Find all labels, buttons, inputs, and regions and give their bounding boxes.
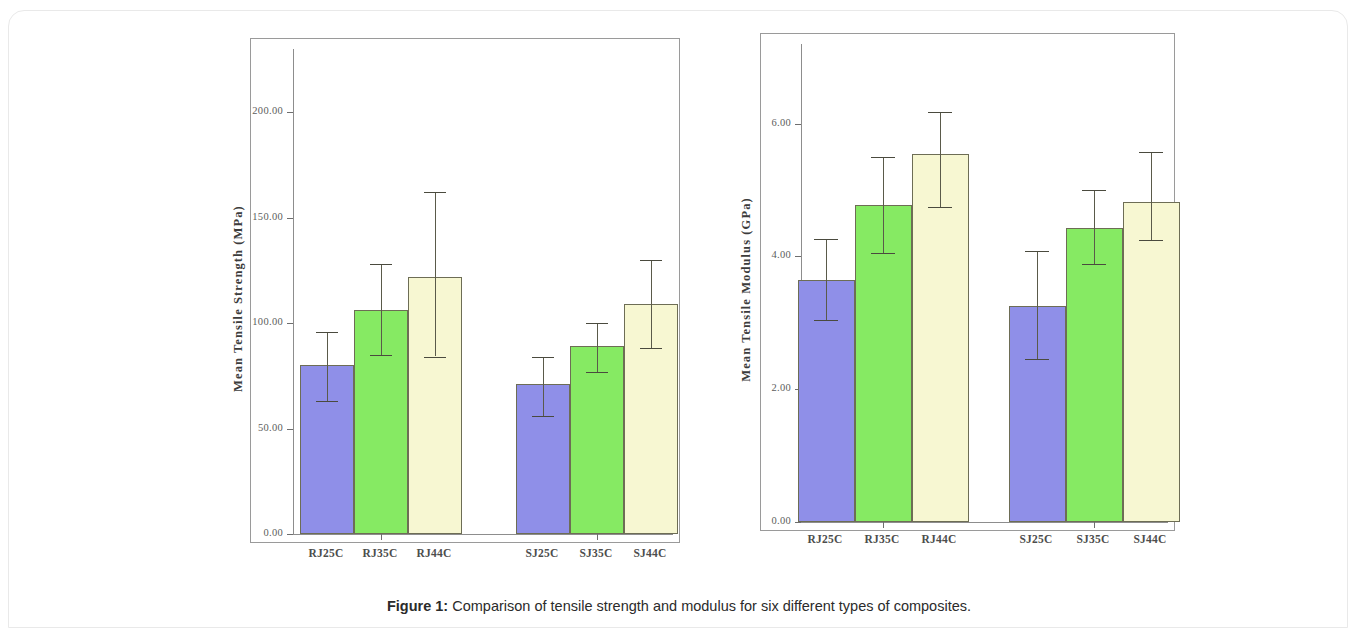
x-axis-label-rj44c: RJ44C [394, 547, 474, 559]
error-bar-stem [435, 192, 436, 356]
error-bar-cap-upper [928, 112, 952, 113]
y-axis-title-tensile-strength: Mean Tensile Strength (MPa) [231, 148, 246, 448]
error-bar-cap-lower [640, 348, 662, 349]
error-bar-cap-upper [370, 264, 392, 265]
error-bar-stem [1151, 152, 1152, 240]
figure-caption-label: Figure 1: [387, 598, 448, 614]
error-bar-cap-upper [424, 192, 446, 193]
x-axis-label-sj44c: SJ44C [1110, 533, 1190, 545]
plot-area-tensile-modulus: 0.002.004.006.00 [760, 33, 1175, 531]
error-bar-cap-lower [316, 401, 338, 402]
y-axis-tick [287, 112, 293, 113]
error-bar-cap-lower [814, 320, 838, 321]
figure-page: 0.0050.00100.00150.00200.00 Mean Tensile… [0, 0, 1358, 640]
bar-sj35c [1066, 228, 1123, 522]
chart-tensile-modulus: 0.002.004.006.00 Mean Tensile Modulus (G… [710, 25, 1210, 585]
x-axis-line [801, 522, 1168, 523]
x-axis-label-rj44c: RJ44C [899, 533, 979, 545]
chart-tensile-strength: 0.0050.00100.00150.00200.00 Mean Tensile… [200, 30, 700, 590]
error-bar-stem [1094, 190, 1095, 264]
error-bar-stem [651, 260, 652, 349]
error-bar-stem [597, 323, 598, 372]
error-bar-cap-upper [640, 260, 662, 261]
error-bar-cap-lower [1139, 240, 1163, 241]
error-bar-cap-upper [586, 323, 608, 324]
y-axis-tick-label: 0.00 [227, 527, 283, 538]
x-axis-line [293, 534, 673, 535]
error-bar-cap-upper [316, 332, 338, 333]
plot-area-tensile-strength: 0.0050.00100.00150.00200.00 [250, 38, 680, 543]
y-axis-tick [287, 534, 293, 535]
error-bar-stem [826, 239, 827, 320]
error-bar-stem [543, 357, 544, 416]
x-axis-group-tick [1094, 522, 1095, 528]
error-bar-cap-lower [532, 416, 554, 417]
figure-caption: Figure 1: Comparison of tensile strength… [0, 598, 1358, 614]
error-bar-cap-lower [1025, 359, 1049, 360]
x-axis-group-tick [381, 534, 382, 540]
error-bar-cap-upper [814, 239, 838, 240]
error-bar-cap-upper [532, 357, 554, 358]
error-bar-cap-lower [871, 253, 895, 254]
error-bar-cap-upper [1025, 251, 1049, 252]
figure-caption-text: Comparison of tensile strength and modul… [448, 598, 971, 614]
error-bar-cap-lower [370, 355, 392, 356]
error-bar-stem [381, 264, 382, 355]
error-bar-cap-upper [1139, 152, 1163, 153]
x-axis-group-tick [883, 522, 884, 528]
error-bar-cap-lower [928, 207, 952, 208]
y-axis-tick [795, 256, 801, 257]
y-axis-tick [795, 522, 801, 523]
bar-sj35c [570, 346, 624, 534]
y-axis-line [293, 49, 294, 534]
error-bar-cap-upper [871, 157, 895, 158]
y-axis-title-tensile-modulus: Mean Tensile Modulus (GPa) [739, 140, 754, 440]
error-bar-stem [1037, 251, 1038, 359]
error-bar-stem [940, 112, 941, 207]
x-axis-group-tick [597, 534, 598, 540]
y-axis-tick [287, 218, 293, 219]
y-axis-tick [795, 124, 801, 125]
error-bar-stem [883, 157, 884, 253]
error-bar-cap-lower [424, 357, 446, 358]
error-bar-stem [327, 332, 328, 402]
y-axis-tick [287, 429, 293, 430]
error-bar-cap-lower [586, 372, 608, 373]
error-bar-cap-lower [1082, 264, 1106, 265]
y-axis-tick-label: 200.00 [227, 105, 283, 116]
y-axis-tick-label: 0.00 [735, 515, 791, 526]
y-axis-tick-label: 6.00 [735, 117, 791, 128]
bar-sj44c [1123, 202, 1180, 522]
y-axis-tick [287, 323, 293, 324]
error-bar-cap-upper [1082, 190, 1106, 191]
x-axis-label-sj44c: SJ44C [610, 547, 690, 559]
bar-rj44c [912, 154, 969, 522]
